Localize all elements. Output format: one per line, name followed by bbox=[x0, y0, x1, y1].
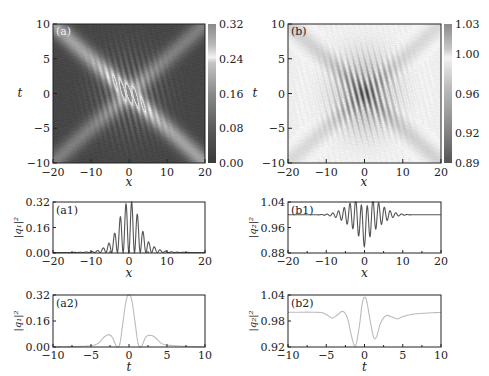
y-tick-label: 0.98 bbox=[261, 315, 286, 328]
y-tick-label: 0.32 bbox=[26, 196, 51, 209]
ylabel-b1: |q₂|² bbox=[247, 217, 259, 238]
xlabel-b2: t bbox=[362, 360, 367, 374]
colorbar-a bbox=[208, 24, 216, 163]
x-tick-label: −5 bbox=[83, 349, 99, 362]
y-tick-label: 0.00 bbox=[26, 247, 51, 260]
panel-b: −20−10010201050−5−10 (b) 1.031.000.960.9… bbox=[253, 18, 480, 189]
y-tick-label: −5 bbox=[269, 122, 285, 135]
heatmap-a-image bbox=[53, 24, 205, 163]
ylabel-a2: |q₁|² bbox=[12, 310, 24, 331]
y-tick-label: 0.32 bbox=[26, 289, 51, 302]
colorbar-tick-label: 1.03 bbox=[455, 18, 480, 31]
y-tick-label: 0.92 bbox=[261, 341, 286, 354]
y-tick-label: 0.96 bbox=[261, 222, 286, 235]
x-tick-label: 10 bbox=[160, 255, 174, 268]
x-tick-label: −10 bbox=[79, 166, 102, 179]
panel-label-b1: (b1) bbox=[291, 204, 314, 217]
colorbar-tick-label: 0.16 bbox=[219, 88, 244, 101]
colorbar-b bbox=[444, 24, 452, 163]
panel-label-b: (b) bbox=[291, 25, 307, 38]
y-tick-label: 0.88 bbox=[261, 247, 286, 260]
panel-label-b2: (b2) bbox=[291, 297, 314, 310]
panel-a1: −20−10010200.320.160.00(a1)x|q₁|² bbox=[12, 196, 212, 280]
y-tick-label: 0.16 bbox=[26, 315, 51, 328]
ylabel-b2: |q₂|² bbox=[247, 310, 259, 331]
x-tick-label: 10 bbox=[396, 255, 410, 268]
panel-b2: −10−505101.040.980.92(b2)t|q₂|² bbox=[247, 289, 448, 374]
y-tick-label: 0 bbox=[43, 88, 50, 101]
colorbar-tick-label: 0.89 bbox=[455, 157, 480, 170]
ylabel-a: t bbox=[18, 86, 23, 100]
y-tick-label: 0 bbox=[278, 88, 285, 101]
x-tick-label: 20 bbox=[434, 255, 448, 268]
colorbar-tick-label: 0.00 bbox=[219, 157, 244, 170]
xlabel-a1: x bbox=[126, 266, 133, 280]
y-tick-label: 1.04 bbox=[261, 196, 286, 209]
panel-b1: −20−10010201.040.960.88(b1)x|q₂|² bbox=[247, 196, 448, 280]
heatmap-a bbox=[53, 24, 205, 163]
xlabel-a2: t bbox=[127, 360, 132, 374]
colorbar-tick-label: 1.00 bbox=[455, 48, 480, 61]
x-tick-label: −5 bbox=[318, 349, 334, 362]
panel-label-a2: (a2) bbox=[56, 297, 78, 310]
y-tick-label: 0.16 bbox=[26, 222, 51, 235]
y-tick-label: −5 bbox=[34, 122, 50, 135]
y-tick-label: 10 bbox=[36, 18, 50, 31]
x-tick-label: 20 bbox=[198, 166, 212, 179]
x-tick-label: −10 bbox=[315, 166, 338, 179]
x-tick-label: 10 bbox=[198, 349, 212, 362]
colorbar-tick-label: 0.92 bbox=[455, 127, 480, 140]
panel-label-a1: (a1) bbox=[56, 204, 78, 217]
panel-label-a: (a) bbox=[56, 25, 71, 38]
x-tick-label: −10 bbox=[315, 255, 338, 268]
y-tick-label: 10 bbox=[271, 18, 285, 31]
colorbar-tick-label: 0.08 bbox=[219, 122, 244, 135]
x-tick-label: 5 bbox=[399, 349, 406, 362]
xlabel-b1: x bbox=[361, 266, 368, 280]
y-tick-label: 1.04 bbox=[261, 289, 286, 302]
x-tick-label: −10 bbox=[79, 255, 102, 268]
x-tick-label: 10 bbox=[396, 166, 410, 179]
x-tick-label: 20 bbox=[198, 255, 212, 268]
ylabel-b: t bbox=[253, 86, 258, 100]
colorbar-tick-label: 0.24 bbox=[219, 53, 244, 66]
colorbar-b-ticks: 1.031.000.960.920.89 bbox=[455, 18, 480, 170]
y-tick-label: 5 bbox=[43, 53, 50, 66]
y-tick-label: −10 bbox=[262, 157, 285, 170]
y-tick-label: 5 bbox=[278, 53, 285, 66]
xlabel-b: x bbox=[361, 175, 368, 189]
panel-a: −20−10010201050−5−10 (a) 0.320.240.160.0… bbox=[18, 18, 244, 189]
panel-a2: −10−505100.320.160.00(a2)t|q₁|² bbox=[12, 289, 212, 374]
colorbar-tick-label: 0.96 bbox=[455, 88, 480, 101]
x-tick-label: 10 bbox=[434, 349, 448, 362]
y-tick-label: 0.00 bbox=[26, 341, 51, 354]
heatmap-b bbox=[288, 24, 441, 163]
ylabel-a1: |q₁|² bbox=[12, 217, 24, 238]
colorbar-tick-label: 0.32 bbox=[219, 18, 244, 31]
colorbar-a-ticks: 0.320.240.160.080.00 bbox=[219, 18, 244, 170]
y-tick-label: −10 bbox=[27, 157, 50, 170]
x-tick-label: 20 bbox=[434, 166, 448, 179]
heatmap-b-image bbox=[288, 24, 441, 163]
figure: −20−10010201050−5−10 (a) 0.320.240.160.0… bbox=[0, 0, 489, 376]
x-tick-label: 10 bbox=[160, 166, 174, 179]
xlabel-a: x bbox=[126, 175, 133, 189]
x-tick-label: 5 bbox=[164, 349, 171, 362]
